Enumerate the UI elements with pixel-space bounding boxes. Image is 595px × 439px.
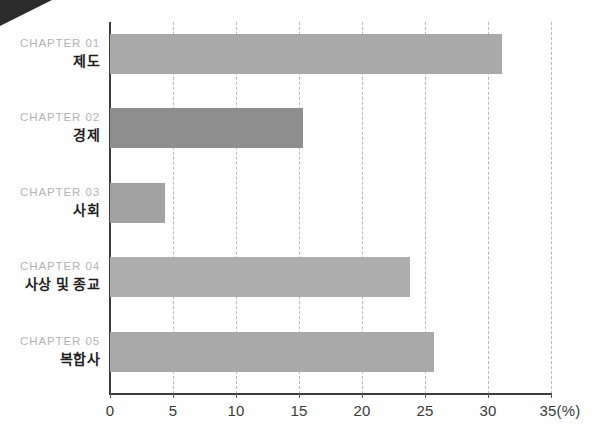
- chart-page: CHAPTER 01제도CHAPTER 02경제CHAPTER 03사회CHAP…: [0, 0, 595, 439]
- x-tick-label-10: 10: [227, 402, 244, 419]
- category-label-4: CHAPTER 04사상 및 종교: [20, 259, 100, 294]
- category-label-2: CHAPTER 02경제: [20, 110, 100, 145]
- chapter-number-5: CHAPTER 05: [20, 334, 100, 350]
- bar-1: [110, 34, 502, 74]
- chapter-title-4: 사상 및 종교: [20, 275, 100, 294]
- bar-5: [110, 332, 434, 372]
- x-tick-label-5: 5: [169, 402, 178, 419]
- x-tick-15: [299, 393, 300, 398]
- x-tick-5: [173, 393, 174, 398]
- category-label-5: CHAPTER 05복합사: [20, 334, 100, 369]
- plot-area: 05101520253035(%): [110, 22, 551, 394]
- x-tick-label-30: 30: [479, 402, 496, 419]
- chapter-title-5: 복합사: [20, 350, 100, 369]
- x-tick-10: [236, 393, 237, 398]
- x-tick-label-35: 35(%): [540, 402, 581, 419]
- x-tick-label-0: 0: [106, 402, 115, 419]
- chapter-title-3: 사회: [20, 201, 100, 220]
- bar-2: [110, 108, 303, 148]
- bar-3: [110, 183, 165, 223]
- x-tick-label-25: 25: [416, 402, 433, 419]
- chapter-title-1: 제도: [20, 52, 100, 71]
- x-tick-30: [488, 393, 489, 398]
- category-labels-column: CHAPTER 01제도CHAPTER 02경제CHAPTER 03사회CHAP…: [0, 22, 100, 394]
- gridline-30: [488, 22, 489, 394]
- x-tick-label-20: 20: [353, 402, 370, 419]
- gridline-35: [551, 22, 552, 394]
- category-label-3: CHAPTER 03사회: [20, 185, 100, 220]
- chapter-number-4: CHAPTER 04: [20, 259, 100, 275]
- x-tick-0: [110, 393, 111, 398]
- x-tick-25: [425, 393, 426, 398]
- x-tick-35: [551, 393, 552, 398]
- x-tick-label-15: 15: [290, 402, 307, 419]
- chapter-number-3: CHAPTER 03: [20, 185, 100, 201]
- chapter-title-2: 경제: [20, 126, 100, 145]
- chapter-number-1: CHAPTER 01: [20, 36, 100, 52]
- chapter-number-2: CHAPTER 02: [20, 110, 100, 126]
- x-axis-line: [109, 393, 551, 395]
- bar-4: [110, 257, 410, 297]
- x-tick-20: [362, 393, 363, 398]
- category-label-1: CHAPTER 01제도: [20, 36, 100, 71]
